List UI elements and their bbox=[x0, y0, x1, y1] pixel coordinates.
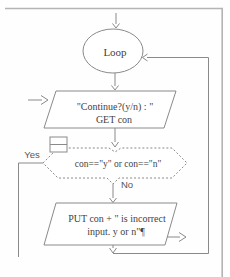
prompt-line1: "Continue?(y/n) : " bbox=[77, 101, 153, 113]
connector-entry-top bbox=[113, 13, 120, 28]
connector-error-down bbox=[110, 245, 117, 253]
no-branch-label: No bbox=[121, 179, 133, 190]
node-loop: Loop bbox=[83, 29, 143, 73]
arrowhead-left-icon bbox=[143, 54, 148, 61]
node-condition: con=="y" or con=="n" bbox=[43, 137, 187, 184]
prompt-line2: GET con bbox=[96, 114, 132, 125]
node-error-output: PUT con + " is incorrect input. y or n"¶ bbox=[44, 203, 177, 245]
connector-yes-branch bbox=[19, 163, 44, 257]
connector-no-branch bbox=[110, 184, 117, 203]
connector-prompt-to-condition bbox=[112, 128, 119, 147]
connector-error-right bbox=[167, 233, 186, 242]
loop-label: Loop bbox=[103, 46, 127, 58]
connector-loop-to-prompt bbox=[112, 73, 119, 90]
arrowhead-down-icon bbox=[112, 142, 119, 147]
arrowhead-down-icon bbox=[112, 86, 119, 91]
yes-branch-label: Yes bbox=[24, 149, 40, 160]
arrowhead-down-icon bbox=[110, 248, 117, 253]
arrowhead-down-icon bbox=[110, 198, 117, 203]
error-parallelogram bbox=[44, 203, 177, 245]
yes-branch-line bbox=[19, 163, 44, 257]
condition-label: con=="y" or con=="n" bbox=[75, 159, 162, 169]
two-cell-box-icon bbox=[50, 137, 67, 152]
error-line2: input. y or n"¶ bbox=[87, 226, 145, 237]
arrowhead-right-icon bbox=[41, 96, 48, 105]
flowchart-canvas: Loop "Continue?(y/n) : " GET con con=="y… bbox=[0, 0, 230, 277]
flowchart-svg: Loop "Continue?(y/n) : " GET con con=="y… bbox=[0, 0, 230, 277]
arrowhead-down-icon bbox=[113, 24, 120, 29]
node-prompt-input: "Continue?(y/n) : " GET con bbox=[44, 91, 176, 128]
arrowhead-right-icon bbox=[179, 233, 186, 242]
error-line1: PUT con + " is incorrect bbox=[68, 213, 166, 224]
connector-entry-left bbox=[28, 96, 48, 105]
